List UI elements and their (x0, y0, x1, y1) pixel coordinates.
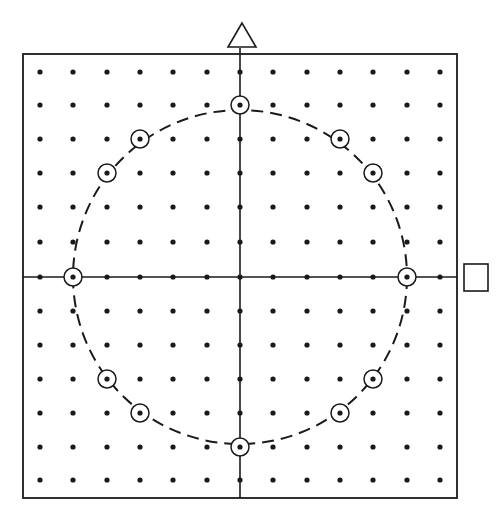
lattice-dot (337, 308, 342, 313)
lattice-dot (170, 69, 175, 74)
lattice-dot (170, 136, 175, 141)
lattice-dot (204, 102, 209, 107)
lattice-dot (437, 410, 442, 415)
circled-point-dot (370, 376, 375, 381)
lattice-dot (137, 204, 142, 209)
lattice-dot (37, 376, 42, 381)
lattice-dot (70, 376, 75, 381)
lattice-dot (404, 170, 409, 175)
lattice-dot (437, 102, 442, 107)
lattice-dot (170, 410, 175, 415)
lattice-dot (170, 102, 175, 107)
lattice-dot (270, 444, 275, 449)
lattice-dot (37, 204, 42, 209)
circled-point-dot (404, 274, 409, 279)
lattice-dot (270, 410, 275, 415)
lattice-dot (37, 69, 42, 74)
lattice-dot (437, 342, 442, 347)
lattice-dot (104, 204, 109, 209)
lattice-dot (404, 69, 409, 74)
lattice-dot (104, 477, 109, 482)
lattice-dot (137, 477, 142, 482)
lattice-dot (70, 477, 75, 482)
lattice-dot (404, 308, 409, 313)
lattice-dot (70, 170, 75, 175)
lattice-dot (337, 342, 342, 347)
lattice-dot (337, 204, 342, 209)
lattice-dot (404, 444, 409, 449)
lattice-dot (204, 239, 209, 244)
lattice-dot (337, 170, 342, 175)
lattice-dot (437, 69, 442, 74)
lattice-dot (204, 444, 209, 449)
lattice-dot (370, 410, 375, 415)
lattice-dot (70, 204, 75, 209)
lattice-dot (437, 239, 442, 244)
lattice-dot (104, 102, 109, 107)
lattice-dot (204, 308, 209, 313)
lattice-dot (37, 239, 42, 244)
lattice-dot (104, 410, 109, 415)
circled-point-dot (337, 410, 342, 415)
lattice-dot (204, 342, 209, 347)
lattice-dot (37, 136, 42, 141)
lattice-dot (37, 410, 42, 415)
lattice-dot (304, 204, 309, 209)
lattice-dot (370, 342, 375, 347)
lattice-dot (404, 136, 409, 141)
lattice-dot (137, 308, 142, 313)
lattice-dot (137, 376, 142, 381)
lattice-dot (370, 204, 375, 209)
lattice-dot (437, 204, 442, 209)
lattice-dot (270, 102, 275, 107)
lattice-dot (270, 170, 275, 175)
lattice-dot (104, 69, 109, 74)
lattice-dot (404, 376, 409, 381)
lattice-dot (304, 410, 309, 415)
lattice-dot (337, 477, 342, 482)
lattice-dot (437, 477, 442, 482)
lattice-circle-diagram (0, 0, 504, 510)
circled-point-dot (104, 170, 109, 175)
lattice-dot (170, 444, 175, 449)
lattice-dot (437, 444, 442, 449)
lattice-dot (204, 477, 209, 482)
lattice-dot (170, 342, 175, 347)
lattice-dot (137, 170, 142, 175)
lattice-dot (404, 342, 409, 347)
lattice-dot (137, 102, 142, 107)
lattice-dot (404, 204, 409, 209)
triangle-marker-icon (228, 23, 256, 47)
circled-point-dot (370, 170, 375, 175)
lattice-dot (270, 136, 275, 141)
lattice-dot (204, 69, 209, 74)
lattice-dot (170, 308, 175, 313)
lattice-dot (337, 376, 342, 381)
lattice-dot (70, 136, 75, 141)
lattice-dot (137, 444, 142, 449)
lattice-dot (204, 410, 209, 415)
lattice-dot (404, 410, 409, 415)
lattice-dot (437, 308, 442, 313)
lattice-dot (104, 342, 109, 347)
lattice-dot (304, 376, 309, 381)
lattice-dot (170, 376, 175, 381)
lattice-dot (304, 239, 309, 244)
lattice-dot (270, 204, 275, 209)
lattice-dot (37, 444, 42, 449)
lattice-dot (70, 308, 75, 313)
lattice-dot (104, 308, 109, 313)
lattice-dot (70, 444, 75, 449)
lattice-dot (370, 102, 375, 107)
lattice-dot (37, 477, 42, 482)
lattice-dot (370, 444, 375, 449)
circled-point-dot (137, 136, 142, 141)
lattice-dot (337, 69, 342, 74)
lattice-dot (70, 410, 75, 415)
lattice-dot (70, 342, 75, 347)
square-marker-icon (464, 264, 488, 291)
circled-point-dot (237, 102, 242, 107)
lattice-dot (337, 239, 342, 244)
lattice-dot (304, 444, 309, 449)
lattice-dot (304, 308, 309, 313)
